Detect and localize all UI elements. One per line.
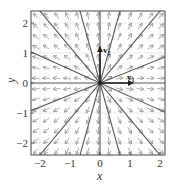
y-tick-label: 2 — [23, 17, 29, 29]
field-arrow — [108, 23, 109, 30]
field-arrow — [116, 66, 122, 70]
field-arrow — [118, 34, 121, 40]
field-arrow — [43, 98, 50, 100]
field-arrow — [76, 127, 79, 133]
field-arrow — [54, 34, 59, 39]
field-arrow — [126, 88, 133, 89]
field-arrow — [137, 78, 144, 79]
field-arrow — [87, 148, 88, 155]
field-arrow — [33, 98, 40, 100]
field-arrow — [54, 108, 60, 112]
field-arrow — [158, 24, 163, 29]
field-arrow — [44, 24, 49, 29]
eigenvector-v2-label: v2 — [103, 45, 111, 56]
field-arrow — [74, 88, 81, 90]
x-axis-label: x — [96, 169, 103, 183]
field-arrow — [77, 148, 79, 155]
field-arrow — [64, 107, 69, 111]
field-arrow — [76, 117, 80, 123]
field-arrow — [118, 127, 121, 133]
field-arrow — [43, 67, 50, 69]
field-arrow — [138, 24, 142, 30]
field-arrow — [76, 23, 79, 30]
field-arrow — [147, 67, 154, 69]
field-arrow — [148, 45, 154, 49]
field-arrow — [53, 67, 60, 69]
field-arrow — [158, 128, 164, 132]
subscript: 1 — [132, 77, 135, 83]
field-arrow — [34, 149, 39, 154]
field-arrow — [44, 35, 49, 40]
field-arrow — [44, 118, 50, 122]
field-arrow — [54, 56, 60, 60]
field-arrow — [65, 23, 69, 29]
field-arrow — [118, 23, 120, 30]
field-arrow — [76, 44, 80, 50]
field-arrow — [43, 108, 49, 111]
field-arrow — [54, 45, 59, 49]
field-arrow — [43, 45, 49, 49]
field-arrow — [147, 56, 153, 59]
field-arrow — [148, 13, 152, 19]
x-tick-label: 0 — [97, 157, 103, 169]
field-arrow — [33, 88, 40, 89]
field-arrow — [127, 107, 132, 112]
field-arrow — [98, 96, 99, 103]
field-arrow — [116, 88, 123, 90]
field-arrow — [33, 128, 39, 132]
field-arrow — [147, 108, 153, 111]
field-arrow — [137, 56, 143, 60]
field-arrow — [137, 45, 142, 50]
field-arrow — [43, 88, 50, 89]
field-arrow — [43, 78, 50, 79]
field-arrow — [53, 88, 60, 89]
field-arrow — [157, 67, 164, 69]
y-tick-label: 1 — [23, 47, 29, 59]
field-arrow — [33, 24, 38, 29]
field-arrow — [158, 138, 163, 143]
field-arrow — [66, 13, 69, 19]
field-arrow — [138, 13, 142, 19]
field-arrow — [148, 118, 154, 122]
field-arrow — [33, 78, 40, 79]
field-arrow — [65, 128, 69, 134]
field-arrow — [157, 98, 164, 100]
x-tick-label: −2 — [34, 157, 46, 169]
field-arrow — [157, 88, 164, 89]
field-arrow — [158, 118, 164, 122]
y-tick-label: −2 — [16, 137, 28, 149]
field-arrow — [128, 127, 132, 133]
field-arrow — [33, 56, 40, 59]
y-tick-label: 0 — [23, 77, 29, 89]
tick-labels: −2−1012−2−1012 — [16, 17, 162, 169]
y-tick-label: −1 — [16, 107, 28, 119]
field-arrow — [108, 13, 109, 20]
field-arrow — [137, 108, 143, 112]
field-arrow — [108, 127, 109, 134]
field-arrow — [55, 24, 59, 30]
field-arrow — [147, 98, 154, 100]
field-arrow — [98, 65, 99, 72]
field-arrow — [53, 78, 60, 79]
field-arrow — [148, 34, 153, 39]
field-arrow — [87, 13, 88, 20]
y-axis-label: y — [4, 77, 18, 84]
field-arrow — [33, 35, 39, 39]
phase-portrait: v1v2 −2−1012−2−1012 x y — [0, 0, 174, 185]
x-tick-label: 2 — [157, 157, 163, 169]
field-arrow — [148, 148, 152, 154]
field-arrow — [33, 45, 39, 48]
field-arrow — [107, 96, 110, 102]
field-arrow — [64, 78, 71, 79]
field-arrow — [76, 34, 79, 40]
subscript: 2 — [108, 50, 111, 56]
field-arrow — [76, 13, 78, 20]
field-arrow — [75, 97, 81, 101]
field-arrow — [127, 55, 132, 60]
field-arrow — [158, 35, 164, 39]
field-arrow — [128, 13, 131, 19]
field-arrow — [87, 106, 90, 112]
field-arrow — [128, 23, 131, 29]
field-arrow — [65, 34, 69, 40]
field-arrow — [64, 98, 70, 101]
